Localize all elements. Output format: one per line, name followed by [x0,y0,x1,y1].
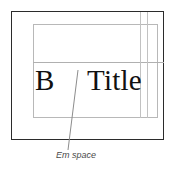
sample-glyph-b: B [35,63,54,97]
figure-caption: Em space [56,150,96,161]
sample-text-line: B Title [33,63,164,97]
em-space-figure: B Title Em space [0,0,177,170]
sample-word-title: Title [87,63,142,97]
